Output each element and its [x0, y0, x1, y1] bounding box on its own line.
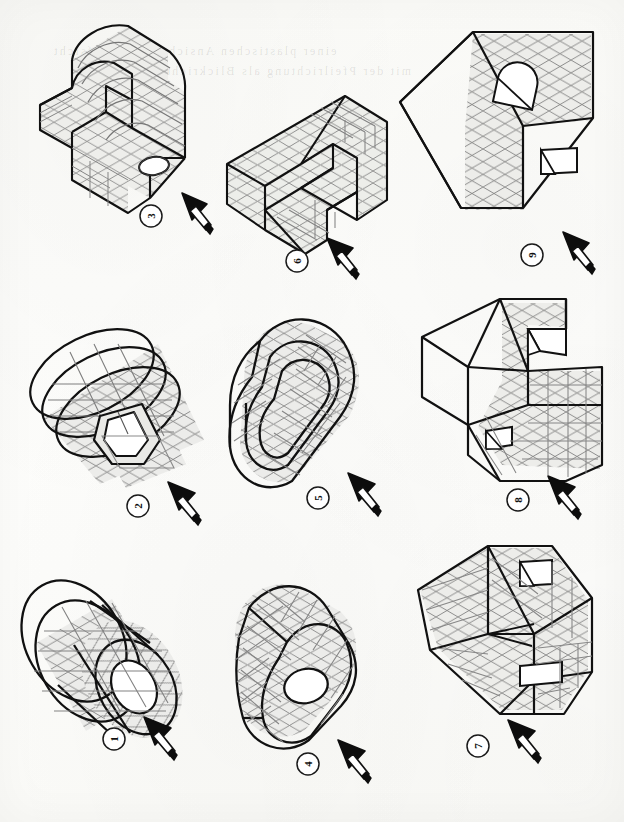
figure-3-label: 3: [140, 205, 162, 227]
figure-7-arrow: [508, 720, 541, 763]
figure-7-slot-upper: [520, 560, 552, 586]
figure-7: 7: [392, 528, 622, 788]
figure-6-label: 6: [286, 250, 308, 272]
figure-4-arrow: [338, 740, 371, 783]
figure-3-body: [40, 26, 185, 213]
scanned-page: einer plastischen Ansicht in der Aufsich…: [0, 0, 624, 822]
figure-6-arrow: [327, 238, 359, 279]
figure-9-number: 9: [526, 252, 538, 258]
figure-4-label: 4: [297, 753, 319, 775]
figure-1-number: 1: [108, 736, 120, 742]
figure-6: 6: [205, 50, 410, 300]
figure-5-arrow: [348, 473, 381, 516]
figure-5: 5: [200, 285, 410, 540]
figure-8-number: 8: [512, 497, 524, 503]
figure-9-arrow: [563, 232, 595, 274]
figure-8-vee-cut: [528, 329, 566, 355]
figure-7-slot-lower: [520, 662, 562, 686]
figure-9-slot: [541, 148, 577, 174]
figure-3: 3: [10, 8, 225, 243]
figure-2-arrow: [168, 482, 201, 525]
figure-5-number: 5: [312, 495, 324, 501]
figure-4-number: 4: [302, 761, 314, 767]
figure-9: 9: [395, 22, 620, 282]
figure-8-label: 8: [507, 489, 529, 511]
figure-4-body: [235, 585, 356, 737]
figure-2-number: 2: [132, 503, 144, 509]
figure-2: 2: [8, 288, 223, 538]
figure-2-label: 2: [127, 495, 149, 517]
figure-8-square-hole: [486, 427, 512, 449]
figure-7-label: 7: [467, 735, 489, 757]
figure-9-label: 9: [521, 244, 543, 266]
figure-1-label: 1: [103, 728, 125, 750]
figure-8-arrow: [548, 476, 581, 519]
figure-8: 8: [390, 285, 620, 540]
figure-3-number: 3: [145, 213, 157, 219]
figure-5-label: 5: [307, 487, 329, 509]
figure-4: 4: [195, 550, 410, 805]
figure-1: 1: [2, 545, 217, 800]
figure-6-number: 6: [291, 258, 303, 264]
figure-7-number: 7: [472, 743, 484, 749]
